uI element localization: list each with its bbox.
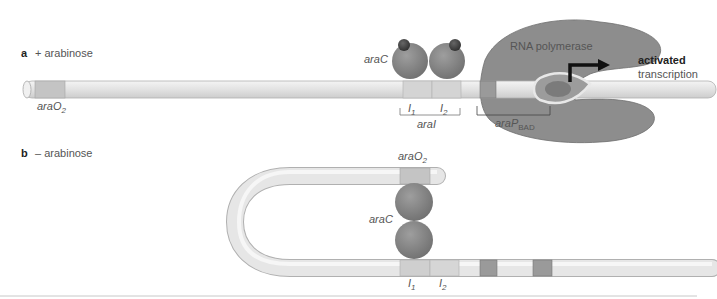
araO2-site-b xyxy=(400,168,430,184)
dna-loop-highlight xyxy=(239,172,712,264)
transcription-label: transcription xyxy=(638,68,698,80)
araC-label-a: araC xyxy=(364,53,388,65)
promoter-box-b-1 xyxy=(480,260,497,276)
araI-label: araI xyxy=(417,118,436,130)
panel-a-condition: + arabinose xyxy=(35,47,93,59)
araC-monomer-1-a xyxy=(392,43,428,79)
I1-label-b: I1 xyxy=(408,277,416,292)
dna-loop-b xyxy=(235,176,712,268)
panel-b: b – arabinose araO2 araC I1 I2 xyxy=(21,147,712,292)
I1-site-a xyxy=(403,81,432,98)
I2-site-b xyxy=(430,260,459,276)
I1-site-b xyxy=(400,260,430,276)
araO2-label-b: araO2 xyxy=(398,150,427,165)
arabinose-molecule-1 xyxy=(398,39,410,51)
araO2-site-a xyxy=(35,81,65,98)
dna-end-cap xyxy=(23,81,31,98)
panel-b-condition: – arabinose xyxy=(35,147,93,159)
panel-a-letter: a xyxy=(21,47,28,59)
activated-label: activated xyxy=(638,54,686,66)
promoter-box-b-2 xyxy=(533,260,552,276)
araC-monomer-1-b xyxy=(395,183,433,221)
rna-polymerase-label: RNA polymerase xyxy=(510,40,593,52)
arabinose-molecule-2 xyxy=(449,39,461,51)
I2-label-b: I2 xyxy=(439,277,447,292)
panel-a: a + arabinose RNA polymerase araO2 araC … xyxy=(21,20,716,143)
open-complex xyxy=(545,81,571,97)
araC-binding-pocket xyxy=(396,215,402,226)
dna-loop-fill xyxy=(235,176,712,268)
araO2-label-a: araO2 xyxy=(37,100,66,115)
promoter-box-a xyxy=(480,81,496,98)
panel-b-letter: b xyxy=(21,147,28,159)
araC-label-b: araC xyxy=(369,213,393,225)
dna-strand-a xyxy=(24,81,716,98)
I2-site-a xyxy=(432,81,461,98)
arabinose-operon-diagram: a + arabinose RNA polymerase araO2 araC … xyxy=(0,0,717,299)
araC-monomer-2-b xyxy=(395,221,433,259)
